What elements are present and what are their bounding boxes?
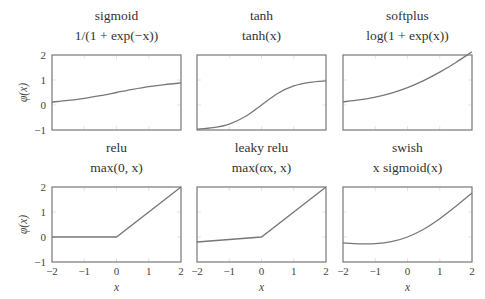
plot-frame [197,55,326,130]
panel-subtitle: log(1 + exp(x)) [366,28,449,43]
y-tick-label: −1 [34,256,46,268]
panel-title: swish [392,140,423,155]
panel-title: tanh [250,8,273,23]
panel-subtitle: x sigmoid(x) [373,160,442,175]
curve-leaky-relu [197,187,326,242]
panel-swish: swishx sigmoid(x)−2−1012x [337,140,475,293]
x-axis-label: x [113,281,120,293]
x-tick-label: 1 [437,265,443,277]
panel-subtitle: max(0, x) [90,160,142,175]
x-tick-label: −2 [46,265,58,277]
y-tick-label: 1 [41,74,47,86]
y-axis-label: φ(x) [17,215,30,234]
plot-frame [197,187,326,262]
panel-title: leaky relu [235,140,289,155]
curve-softplus [343,52,472,102]
plot-frame [343,187,472,262]
panel-title: softplus [386,8,429,23]
panel-title: sigmoid [95,8,139,23]
x-tick-label: 0 [259,265,265,277]
panel-softplus: softpluslog(1 + exp(x)) [343,8,472,130]
x-tick-label: 2 [323,265,329,277]
x-tick-label: −1 [223,265,235,277]
panel-leaky-relu: leaky relumax(αx, x)−2−1012x [191,140,329,293]
activation-functions-figure: sigmoid1/(1 + exp(−x))210−1φ(x)tanhtanh(… [0,0,485,299]
x-tick-label: 0 [405,265,411,277]
x-tick-label: −2 [337,265,349,277]
x-tick-label: 1 [146,265,152,277]
y-tick-label: 0 [41,99,47,111]
plot-frame [343,55,472,130]
y-tick-label: 2 [41,49,47,61]
x-tick-label: −2 [191,265,203,277]
y-tick-label: 1 [41,206,47,218]
x-tick-label: 2 [178,265,184,277]
x-axis-label: x [258,281,265,293]
panel-relu: relumax(0, x)210−1φ(x)−2−1012x [17,140,184,293]
x-tick-label: −1 [369,265,381,277]
panel-subtitle: tanh(x) [242,28,281,43]
x-axis-label: x [404,281,411,293]
curve-sigmoid [52,83,181,102]
y-tick-label: 0 [41,231,47,243]
y-axis-label: φ(x) [17,83,30,102]
x-tick-label: −1 [78,265,90,277]
panel-subtitle: max(αx, x) [232,160,292,175]
panel-title: relu [106,140,127,155]
curve-swish [343,193,472,244]
x-tick-label: 0 [114,265,120,277]
x-tick-label: 1 [291,265,297,277]
panel-subtitle: 1/(1 + exp(−x)) [75,28,158,43]
y-tick-label: 2 [41,181,47,193]
curve-relu [52,187,181,237]
x-tick-label: 2 [469,265,475,277]
panel-tanh: tanhtanh(x) [197,8,326,130]
panel-sigmoid: sigmoid1/(1 + exp(−x))210−1φ(x) [17,8,181,136]
y-tick-label: −1 [34,124,46,136]
plot-frame [52,187,181,262]
curve-tanh [197,81,326,129]
